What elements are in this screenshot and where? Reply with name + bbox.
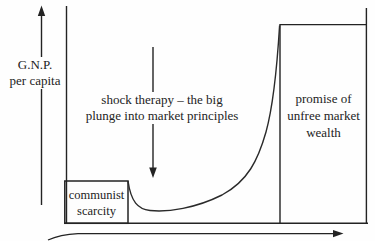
y-axis-label-line2: per capita (6, 73, 64, 89)
up-arrow-head-icon (38, 6, 45, 17)
y-axis-label-line1: G.N.P. (6, 57, 64, 73)
y-axis-up-arrow (38, 6, 45, 206)
down-arrow-head-icon (149, 168, 157, 179)
shock-annotation-line2: plunge into market principles (80, 108, 244, 124)
promise-label-line2: unfree market (281, 107, 366, 124)
promise-label-line1: promise of (281, 90, 366, 107)
diagram-canvas: G.N.P. per capita shock therapy – the bi… (0, 0, 375, 241)
communist-label-line2: scarcity (66, 203, 127, 219)
shock-therapy-annotation: shock therapy – the big plunge into mark… (80, 92, 244, 124)
communist-scarcity-label: communist scarcity (66, 187, 127, 219)
promise-label-line3: wealth (281, 124, 366, 141)
communist-label-line1: communist (66, 187, 127, 203)
right-arrow-head-icon (333, 230, 344, 237)
shock-annotation-line1: shock therapy – the big (80, 92, 244, 108)
time-axis-right-arrow (48, 230, 344, 240)
promise-box-label: promise of unfree market wealth (281, 90, 366, 141)
y-axis-label: G.N.P. per capita (6, 57, 64, 89)
right-arrow-shaft (48, 234, 334, 240)
